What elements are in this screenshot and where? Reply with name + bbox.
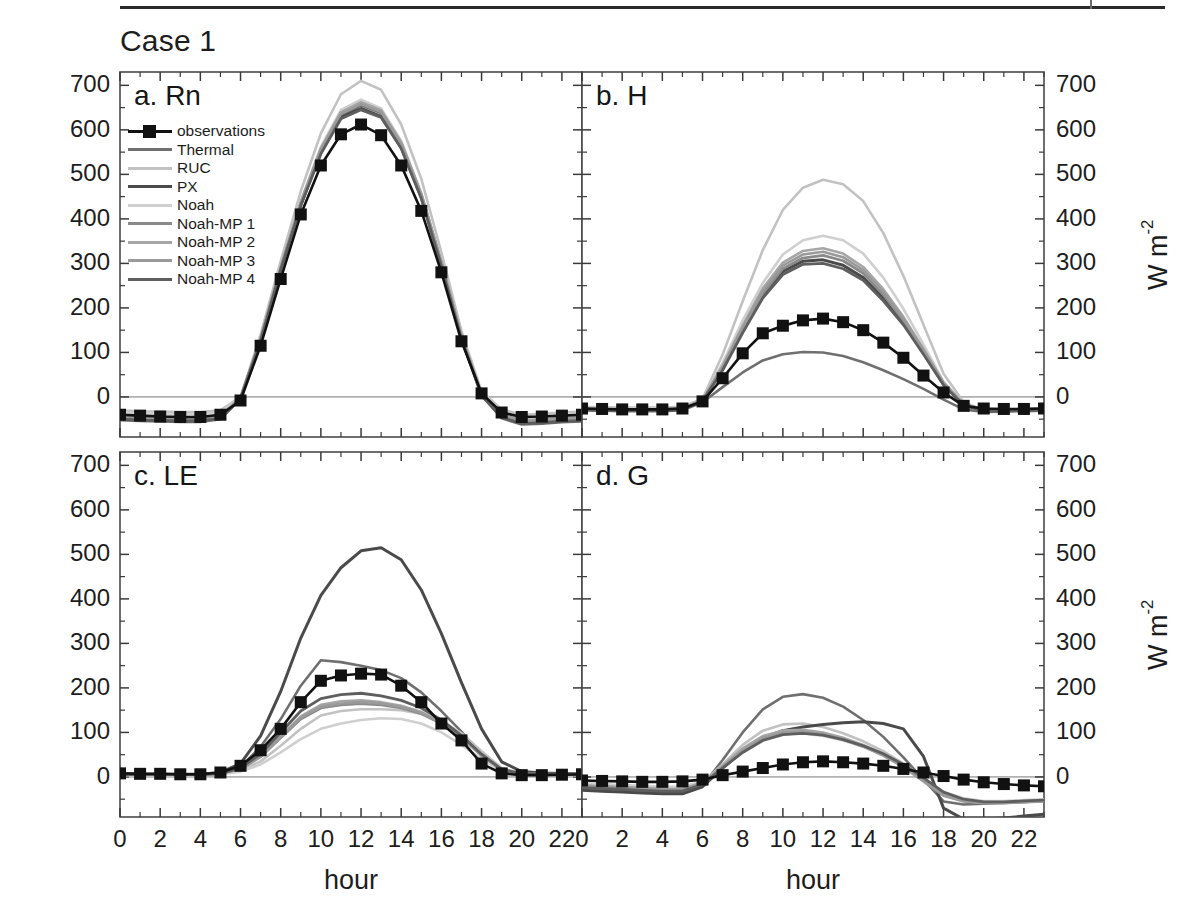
obs-marker (536, 769, 548, 781)
ytick-label-d-700: 700 (1056, 450, 1134, 478)
xtick-label-c-12: 12 (345, 825, 377, 853)
obs-marker (777, 320, 789, 332)
panel-label-d: d. G (596, 460, 649, 492)
ytick-label-a-600: 600 (32, 115, 110, 143)
obs-marker (737, 766, 749, 778)
obs-marker (174, 768, 186, 780)
obs-marker (1038, 403, 1050, 415)
legend-item-observations[interactable]: observations (128, 122, 265, 141)
legend-item-noah[interactable]: Noah (128, 196, 265, 215)
obs-marker (978, 776, 990, 788)
xtick-label-c-14: 14 (385, 825, 417, 853)
ytick-label-b-500: 500 (1056, 159, 1134, 187)
obs-marker (998, 778, 1010, 790)
ytick-label-c-200: 200 (32, 673, 110, 701)
obs-marker (1038, 780, 1050, 792)
yaxis-label-b: W m-2 (1140, 185, 1172, 325)
obs-marker (235, 395, 247, 407)
ytick-label-d-200: 200 (1056, 673, 1134, 701)
obs-marker (797, 314, 809, 326)
legend-item-label: Noah-MP 4 (177, 270, 255, 288)
legend-item-noah-mp-4[interactable]: Noah-MP 4 (128, 270, 265, 289)
legend-item-noah-mp-1[interactable]: Noah-MP 1 (128, 215, 265, 234)
yaxis-label-exponent: -2 (1138, 219, 1157, 234)
xtick-label-d-8: 8 (727, 825, 759, 853)
obs-marker (275, 723, 287, 735)
ytick-label-a-500: 500 (32, 159, 110, 187)
obs-marker (295, 696, 307, 708)
ytick-label-d-500: 500 (1056, 539, 1134, 567)
xaxis-label-c: hour (306, 865, 396, 896)
ytick-label-a-100: 100 (32, 337, 110, 365)
xtick-label-c-2: 2 (144, 825, 176, 853)
ytick-label-d-400: 400 (1056, 584, 1134, 612)
legend-item-thermal[interactable]: Thermal (128, 141, 265, 160)
legend-item-label: Noah-MP 2 (177, 233, 255, 251)
legend-item-label: Noah (177, 196, 214, 214)
panel-frame-c (120, 452, 582, 817)
legend-item-label: Noah-MP 3 (177, 252, 255, 270)
obs-marker (335, 128, 347, 140)
obs-marker (978, 403, 990, 415)
obs-marker (355, 668, 367, 680)
ytick-label-d-600: 600 (1056, 495, 1134, 523)
obs-marker (235, 760, 247, 772)
obs-marker (757, 762, 769, 774)
ytick-label-c-600: 600 (32, 495, 110, 523)
xtick-label-d-2: 2 (606, 825, 638, 853)
obs-marker (556, 410, 568, 422)
legend-item-noah-mp-3[interactable]: Noah-MP 3 (128, 252, 265, 271)
obs-marker (476, 387, 488, 399)
legend-marker-icon (143, 125, 156, 138)
yaxis-label-base: W m (1143, 614, 1173, 669)
obs-marker (777, 758, 789, 770)
obs-marker (897, 763, 909, 775)
ytick-label-a-700: 700 (32, 70, 110, 98)
ytick-label-c-100: 100 (32, 717, 110, 745)
obs-marker (938, 770, 950, 782)
obs-marker (697, 395, 709, 407)
ytick-label-c-300: 300 (32, 628, 110, 656)
obs-marker (214, 409, 226, 421)
ytick-label-d-0: 0 (1056, 762, 1134, 790)
obs-marker (516, 411, 528, 423)
legend-item-ruc[interactable]: RUC (128, 159, 265, 178)
obs-marker (214, 766, 226, 778)
obs-marker (958, 400, 970, 412)
ytick-label-a-300: 300 (32, 248, 110, 276)
obs-marker (536, 411, 548, 423)
obs-marker (295, 208, 307, 220)
obs-marker (676, 775, 688, 787)
obs-marker (174, 411, 186, 423)
obs-marker (917, 766, 929, 778)
xtick-label-c-18: 18 (466, 825, 498, 853)
obs-marker (395, 159, 407, 171)
obs-marker (194, 768, 206, 780)
obs-marker (455, 335, 467, 347)
legend-item-noah-mp-2[interactable]: Noah-MP 2 (128, 233, 265, 252)
obs-marker (697, 774, 709, 786)
obs-marker (616, 775, 628, 787)
xtick-label-c-20: 20 (506, 825, 538, 853)
obs-marker (656, 776, 668, 788)
obs-marker (837, 756, 849, 768)
obs-marker (134, 768, 146, 780)
obs-marker (114, 409, 126, 421)
xtick-label-d-20: 20 (968, 825, 1000, 853)
panel-label-a: a. Rn (134, 80, 201, 112)
ytick-label-b-600: 600 (1056, 115, 1134, 143)
obs-marker (355, 119, 367, 131)
obs-marker (415, 696, 427, 708)
obs-marker (154, 411, 166, 423)
obs-marker (315, 159, 327, 171)
obs-marker (837, 316, 849, 328)
xtick-label-c-10: 10 (305, 825, 337, 853)
ytick-label-a-200: 200 (32, 293, 110, 321)
ytick-label-b-200: 200 (1056, 293, 1134, 321)
xtick-label-d-22: 22 (1008, 825, 1040, 853)
legend-item-px[interactable]: PX (128, 178, 265, 197)
obs-marker (676, 403, 688, 415)
legend-item-label: RUC (177, 159, 211, 177)
yaxis-label-base: W m (1143, 234, 1173, 289)
obs-marker (596, 775, 608, 787)
